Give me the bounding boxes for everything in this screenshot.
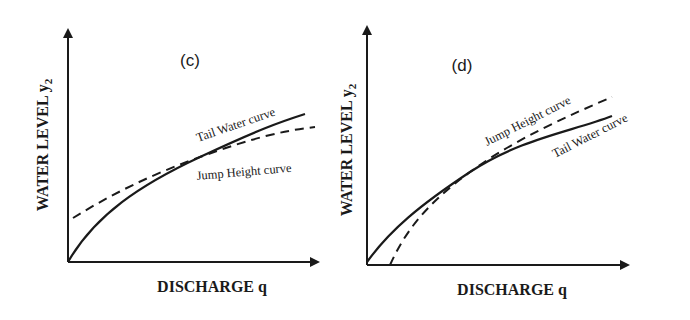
y-axis-label-d: WATER LEVEL y2 <box>338 83 358 216</box>
jump-height-label-c: Jump Height curve <box>196 161 292 183</box>
panel-d: (d) WATER LEVEL y2 DISCHARGE q Jump Heig… <box>338 27 630 299</box>
panel-c: (c) WATER LEVEL y2 DISCHARGE q Tail Wate… <box>34 30 318 296</box>
x-axis-label-c: DISCHARGE q <box>157 278 267 296</box>
y-axis-label-text-d: WATER LEVEL y <box>338 89 356 216</box>
tail-water-label-c: Tail Water curve <box>194 105 277 145</box>
tail-water-label-d: Tail Water curve <box>550 111 630 161</box>
x-axis-label-d: DISCHARGE q <box>457 281 567 299</box>
panel-label-c: (c) <box>180 51 200 70</box>
y-axis-label-text-c: WATER LEVEL y <box>34 84 52 211</box>
diagram-canvas: (c) WATER LEVEL y2 DISCHARGE q Tail Wate… <box>0 0 690 320</box>
panel-label-d: (d) <box>452 56 473 75</box>
jump-height-curve-d <box>390 97 612 265</box>
y-axis-subscript-c: 2 <box>42 78 54 84</box>
tail-water-curve-c <box>68 114 305 262</box>
y-axis-label-c: WATER LEVEL y2 <box>34 78 54 211</box>
y-axis-subscript-d: 2 <box>346 83 358 89</box>
